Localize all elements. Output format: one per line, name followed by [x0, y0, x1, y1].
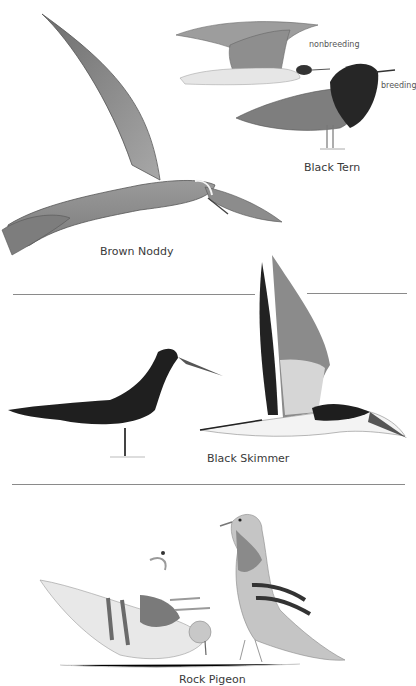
black-skimmer-caption: Black Skimmer — [207, 452, 289, 465]
black-tern-caption: Black Tern — [304, 161, 360, 174]
section-divider — [307, 293, 407, 294]
rock-pigeon-caption: Rock Pigeon — [179, 673, 246, 686]
black-tern-nonbreeding-label: nonbreeding — [309, 40, 360, 49]
brown-noddy-caption: Brown Noddy — [100, 245, 173, 258]
black-tern-breeding-label: breeding — [381, 81, 416, 90]
black-tern-nonbreeding-illustration — [176, 22, 330, 85]
brown-noddy-upper-wing — [42, 14, 160, 180]
rock-pigeon-illustration — [40, 514, 345, 667]
black-skimmer-standing-illustration — [8, 349, 223, 457]
brown-noddy-tail — [2, 215, 70, 255]
section-divider — [13, 294, 255, 295]
section-divider — [12, 484, 405, 485]
black-skimmer-flying-illustration — [200, 255, 407, 438]
